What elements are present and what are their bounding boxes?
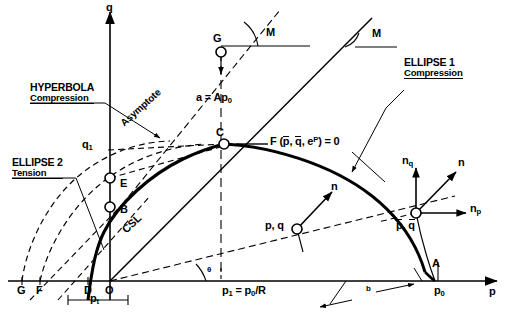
point-label-q1: q1 xyxy=(82,139,93,152)
a-equals-label: a = Ap0 xyxy=(196,92,232,105)
yield-fn-F: F ( xyxy=(270,135,283,147)
n-resultant-vector xyxy=(416,172,456,213)
theta-ray-dashed xyxy=(110,196,455,281)
n-main-label: n xyxy=(458,157,465,169)
point-label-B: B xyxy=(120,204,128,216)
pq-bar-p: p xyxy=(396,220,403,232)
theta-ray-group xyxy=(110,196,455,281)
b-dimension-witness-right xyxy=(414,268,422,281)
p1-rhs: = p xyxy=(233,284,251,296)
point-label-G-axis: G xyxy=(17,285,25,297)
yield-fn-comma2: , e xyxy=(302,135,314,147)
lower-left-dashed-b xyxy=(58,196,150,300)
axis-ticks-group xyxy=(22,268,221,285)
e-to-c-dashed xyxy=(110,146,224,178)
ellipse2-subtitle: Tension xyxy=(12,168,63,179)
ellipse1-annotation: ELLIPSE 1 Compression xyxy=(404,57,463,79)
n-q-label: nq xyxy=(402,155,413,168)
yield-function-label: F (p, q, eP) = 0 xyxy=(270,136,340,148)
m-right-angle-arc xyxy=(345,33,359,47)
marker-point-E xyxy=(105,173,115,183)
n-mid-vector xyxy=(297,192,332,229)
ellipse1-subtitle: Compression xyxy=(404,68,463,79)
point-markers-group xyxy=(105,47,421,234)
b-dimension-group xyxy=(320,262,438,307)
m-right-label: M xyxy=(372,28,381,40)
ellipse1-compression-curve xyxy=(224,144,425,272)
pq-bar-q: q xyxy=(408,220,415,232)
p-axis-label: p xyxy=(489,286,496,298)
a-equals-subscript: 0 xyxy=(228,96,232,105)
pt-dimension-label: pt xyxy=(90,293,99,306)
yield-fn-q-bar: q xyxy=(295,136,302,148)
point-label-pq-bar: p, q xyxy=(396,220,415,232)
b-dimension-arrow-right xyxy=(376,284,414,292)
n-p-subscript: p xyxy=(477,207,482,216)
theta-angle-arc xyxy=(196,264,206,281)
yield-function-leader xyxy=(352,152,385,182)
n-p-label: np xyxy=(470,203,481,216)
hyperbola-compression-curve xyxy=(88,144,224,300)
point-label-pq: p, q xyxy=(265,220,284,232)
point-label-C: C xyxy=(216,127,224,139)
marker-point-pq xyxy=(292,224,302,234)
point-label-F-axis: F xyxy=(36,285,43,297)
hyperbola-subtitle: Compression xyxy=(30,93,94,104)
n-q-subscript: q xyxy=(409,159,414,168)
marker-point-C xyxy=(219,139,229,149)
b-dimension-witness-left xyxy=(330,281,346,304)
a-equals-text: a = Ap xyxy=(196,91,228,103)
point-label-E: E xyxy=(120,178,127,190)
q-axis-label: q xyxy=(106,2,113,14)
marker-point-B xyxy=(105,202,115,212)
yield-fn-p-bar: p xyxy=(283,136,290,148)
point-label-G-top: G xyxy=(213,33,221,45)
diagram-vector-layer xyxy=(0,0,515,324)
mid-normal-group xyxy=(297,192,332,252)
b-dimension-label: b xyxy=(366,285,371,293)
m-left-angle-arc xyxy=(244,22,258,46)
ellipse2-annotation: ELLIPSE 2 Tension xyxy=(12,157,63,179)
point-label-p0: p0 xyxy=(434,285,445,298)
marker-point-G-top xyxy=(216,47,226,57)
n-mid-label: n xyxy=(331,181,338,193)
hyperbola-curve-group xyxy=(88,144,224,300)
theta-label: θ xyxy=(207,266,211,274)
ellipse2-leader xyxy=(12,178,104,250)
b-dimension-arrow-left xyxy=(320,300,352,307)
p1-equation-label: p1 = p0/R xyxy=(222,285,266,298)
q1-subscript: 1 xyxy=(89,143,93,152)
pt-subscript: t xyxy=(97,297,99,306)
point-label-O-origin: O xyxy=(105,285,113,297)
point-label-A-axis: A xyxy=(432,258,440,270)
figure-canvas: q p HYPERBOLA Compression ELLIPSE 2 Tens… xyxy=(0,0,515,324)
p0-subscript: 0 xyxy=(441,289,445,298)
hyperbola-annotation: HYPERBOLA Compression xyxy=(30,82,94,104)
leader-lines-group xyxy=(12,90,404,250)
marker-point-pq-bar xyxy=(411,208,421,218)
p1-rhs-tail: /R xyxy=(255,284,266,296)
yield-fn-tail: ) = 0 xyxy=(318,135,339,147)
csl-line-group xyxy=(110,18,397,281)
m-left-label: M xyxy=(266,27,275,39)
